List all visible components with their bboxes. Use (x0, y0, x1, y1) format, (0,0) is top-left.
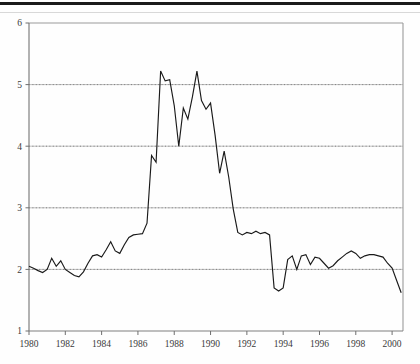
x-tick-label: 1994 (274, 339, 293, 349)
gridlines-group (29, 85, 403, 270)
x-tick-label: 1996 (310, 339, 329, 349)
x-tick-label: 1986 (128, 339, 147, 349)
y-tick-label: 6 (17, 18, 22, 28)
chart-page: 123456 198019821984198619881990199219941… (0, 0, 420, 364)
x-tick-label: 1982 (56, 339, 75, 349)
x-tick-label: 1988 (165, 339, 184, 349)
data-series-group (29, 71, 401, 293)
data-line-series-1 (29, 71, 401, 293)
x-tick-label: 1984 (92, 339, 111, 349)
y-tick-label: 5 (17, 80, 22, 90)
plot-frame (29, 23, 403, 331)
x-tick-label: 1980 (20, 339, 39, 349)
y-tick-label: 3 (17, 203, 22, 213)
x-tick-label: 1998 (346, 339, 365, 349)
line-chart: 123456 198019821984198619881990199219941… (0, 0, 420, 364)
x-tick-label: 2000 (383, 339, 402, 349)
y-tick-label: 1 (17, 326, 22, 336)
y-axis-ticks: 123456 (17, 18, 29, 336)
x-tick-label: 1990 (201, 339, 220, 349)
x-tick-label: 1992 (237, 339, 256, 349)
y-tick-label: 2 (17, 265, 22, 275)
x-axis-ticks: 1980198219841986198819901992199419961998… (20, 331, 402, 349)
y-tick-label: 4 (17, 142, 22, 152)
